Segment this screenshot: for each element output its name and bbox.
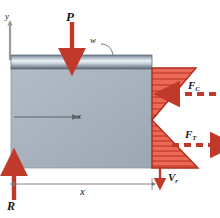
top-plate [11, 55, 152, 69]
shear-force-subscript: r [175, 177, 178, 184]
distributed-load-label: w [90, 36, 96, 45]
compression-force-subscript: C [195, 85, 200, 92]
y-axis [7, 20, 12, 60]
shear-force-label: Vr [168, 172, 178, 183]
diagram-canvas [0, 0, 220, 218]
tension-force-label: FT [185, 129, 197, 140]
tension-force-subscript: T [192, 134, 196, 141]
concrete-beam-body [11, 68, 152, 168]
neutral-axis-label: x [77, 112, 81, 121]
x-dimension-label: x [80, 186, 85, 197]
y-axis-label: y [5, 12, 9, 21]
w-leader-line [101, 44, 113, 55]
compression-force-label: FC [188, 80, 200, 91]
reaction-label: R [7, 200, 15, 212]
beam-free-body-diagram: P w y x x R FC FT Vr [0, 0, 220, 218]
point-load-label: P [66, 10, 74, 23]
